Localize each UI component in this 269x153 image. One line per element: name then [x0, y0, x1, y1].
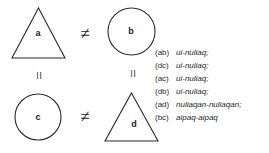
node-label-c: c [28, 113, 48, 122]
gloss-key: (dc) [155, 61, 176, 70]
gloss-item: (ab) ui-nuliaq; [155, 48, 267, 61]
gloss-key: (bc) [155, 113, 176, 122]
relation-a-c-equal: = [29, 68, 47, 83]
relation-b-d-equal: = [123, 66, 141, 81]
gloss-item: (dc) ui-nuliaq; [155, 61, 267, 74]
gloss-item: (ad) nuliaqan-nuliaqan; [155, 100, 267, 113]
relation-c-d-not-equal: ≠ [75, 108, 95, 125]
gloss-item: (bc) aipaq-aipaq [155, 113, 267, 126]
triangle-d-outline [105, 93, 158, 141]
relation-a-b-not-equal: ≠ [75, 25, 95, 42]
gloss-key: (ad) [155, 100, 176, 109]
relation-b-d-equal-glyph: = [125, 69, 140, 77]
gloss-item: (db) ui-nuliaq; [155, 87, 267, 100]
node-label-d: d [124, 120, 144, 129]
node-label-a: a [28, 29, 48, 38]
gloss-form: ui-nuliaq; [176, 61, 208, 70]
gloss-form: ui-nuliaq; [176, 48, 208, 57]
gloss-key: (ac) [155, 74, 176, 83]
node-label-b: b [121, 27, 141, 36]
gloss-list: (ab) ui-nuliaq; (dc) ui-nuliaq; (ac) ui-… [155, 48, 267, 126]
relation-a-c-equal-glyph: = [31, 71, 46, 79]
gloss-form: ui-nuliaq; [176, 87, 208, 96]
gloss-key: (ab) [155, 48, 176, 57]
gloss-item: (ac) ui-nuliaq; [155, 74, 267, 87]
gloss-form: nuliaqan-nuliaqan; [176, 100, 241, 109]
gloss-form: aipaq-aipaq [176, 113, 218, 122]
gloss-form: ui-nuliaq; [176, 74, 208, 83]
gloss-key: (db) [155, 87, 176, 96]
relation-diagram-figure: a b c d ≠ ≠ = = (ab) ui-nuliaq; (dc) ui-… [0, 0, 269, 153]
